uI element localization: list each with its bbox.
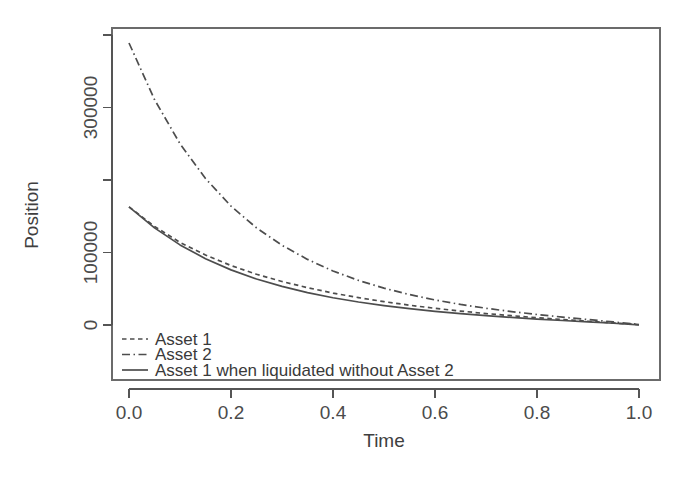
x-tick-label: 0.0 [116,402,142,423]
y-axis: 0100000300000 [80,35,112,330]
x-tick-label: 0.8 [524,402,550,423]
x-tick-label: 0.6 [422,402,448,423]
y-tick-label: 100000 [80,221,101,284]
legend-label: Asset 1 when liquidated without Asset 2 [155,361,454,380]
chart-legend: Asset 1Asset 2Asset 1 when liquidated wi… [122,330,454,380]
x-tick-label: 1.0 [626,402,652,423]
data-series-group [129,43,639,325]
series-line-dashed [129,207,639,325]
y-axis-title: Position [21,181,42,249]
y-axis-ticks [103,35,112,325]
chart-figure: 0100000300000 0.00.20.40.60.81.0 Time Po… [0,0,697,477]
x-axis-tick-labels: 0.00.20.40.60.81.0 [116,402,652,423]
series-line-dashdot [129,43,639,324]
series-line-solid [129,207,639,325]
y-axis-tick-labels: 0100000300000 [80,76,101,330]
x-axis-title: Time [363,430,405,451]
plot-frame [112,28,660,380]
x-axis-ticks [129,389,639,398]
x-tick-label: 0.2 [218,402,244,423]
line-chart: 0100000300000 0.00.20.40.60.81.0 Time Po… [0,0,697,477]
y-tick-label: 300000 [80,76,101,139]
x-axis: 0.00.20.40.60.81.0 [116,389,652,423]
x-tick-label: 0.4 [320,402,347,423]
y-tick-label: 0 [80,320,101,331]
